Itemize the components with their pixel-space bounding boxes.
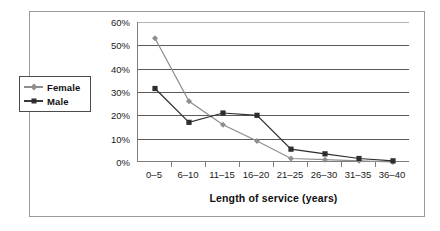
x-axis-tick-mark xyxy=(239,162,240,167)
x-axis-tick-mark xyxy=(205,162,206,167)
chart-legend: Female Male xyxy=(19,76,91,112)
data-point-male-2 xyxy=(220,110,225,115)
diamond-marker-icon xyxy=(24,86,43,88)
x-axis-tick-marks xyxy=(137,162,409,167)
data-point-male-0 xyxy=(152,86,157,91)
y-axis-tick-label: 40% xyxy=(111,63,130,74)
y-axis-tick-label: 60% xyxy=(111,17,130,28)
x-axis-tick-mark xyxy=(341,162,342,167)
x-axis-tick-label: 0–5 xyxy=(146,169,162,180)
legend-label-female: Female xyxy=(47,82,80,93)
x-axis-tick-mark xyxy=(273,162,274,167)
x-axis-tick-label: 16–20 xyxy=(243,169,269,180)
data-point-male-6 xyxy=(356,156,361,161)
legend-item-male: Male xyxy=(24,94,90,108)
y-axis-tick-label: 10% xyxy=(111,133,130,144)
x-axis-tick-mark xyxy=(171,162,172,167)
x-axis-tick-mark xyxy=(375,162,376,167)
x-axis-tick-label: 6–10 xyxy=(177,169,198,180)
legend-item-female: Female xyxy=(24,80,90,94)
series-layer xyxy=(138,22,410,162)
data-point-male-1 xyxy=(186,120,191,125)
data-point-female-4 xyxy=(288,156,294,162)
data-point-female-0 xyxy=(152,35,158,41)
y-axis-tick-label: 20% xyxy=(111,110,130,121)
y-axis-tick-label: 0% xyxy=(116,157,130,168)
legend-label-male: Male xyxy=(47,96,69,107)
data-point-male-3 xyxy=(254,113,259,118)
square-marker-icon xyxy=(24,100,43,102)
y-axis-tick-label: 50% xyxy=(111,40,130,51)
data-point-female-3 xyxy=(254,138,260,144)
x-axis-title: Length of service (years) xyxy=(101,192,440,204)
data-point-male-5 xyxy=(322,151,327,156)
y-axis-tick-label: 30% xyxy=(111,87,130,98)
x-axis-tick-mark xyxy=(307,162,308,167)
y-axis-tick-labels: 0%10%20%30%40%50%60% xyxy=(101,22,134,162)
x-axis-tick-label: 31–35 xyxy=(345,169,371,180)
x-axis-tick-label: 11–15 xyxy=(209,169,235,180)
x-axis-tick-label: 26–30 xyxy=(311,169,337,180)
plot-area xyxy=(137,22,409,162)
x-axis-tick-label: 21–25 xyxy=(277,169,303,180)
data-point-male-4 xyxy=(288,147,293,152)
chart-figure: Female Male 0%10%20%30%40%50%60% 0–56–10… xyxy=(0,0,440,231)
x-axis-tick-label: 36–40 xyxy=(379,169,405,180)
plot-area-wrapper: 0%10%20%30%40%50%60% 0–56–1011–1516–2021… xyxy=(101,22,411,182)
x-axis-tick-labels: 0–56–1011–1516–2021–2526–3031–3536–40 xyxy=(137,169,409,183)
